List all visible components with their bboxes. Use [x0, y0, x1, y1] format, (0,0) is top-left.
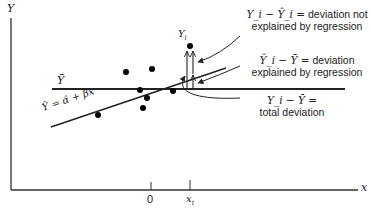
deviation-arrows: [187, 51, 193, 89]
x-tick-label-zero: 0: [147, 193, 153, 205]
annotation-unexplained-line1: deviation not: [308, 8, 368, 20]
annotation-total: Y_i − Ȳ = total deviation: [244, 94, 340, 118]
regression-deviation-diagram: Y x 0 xi Ȳ Ŷ = α̂ + β̂x Yi Y_i − Ŷ_i = d…: [0, 0, 371, 210]
leader-unexplained: [198, 36, 240, 62]
annotation-explained-line2: explained by regression: [244, 66, 370, 78]
data-point: [140, 105, 146, 111]
annotation-total-formula: Y_i − Ȳ =: [244, 94, 340, 106]
data-point: [123, 69, 129, 75]
annotation-unexplained: Y_i − Ŷ_i = deviation not explained by r…: [244, 8, 370, 32]
annotation-unexplained-formula: Y_i − Ŷ_i =: [246, 8, 305, 20]
annotation-total-line2: total deviation: [244, 106, 340, 118]
x-axis-label: x: [361, 181, 367, 194]
data-point: [95, 112, 101, 118]
point-label-yi: Yi: [178, 28, 187, 42]
data-point: [137, 87, 143, 93]
leader-explained: [198, 66, 240, 83]
annotation-explained: Ŷ_i − Ȳ = deviation explained by regress…: [244, 54, 370, 78]
x-tick-label-xi: xi: [186, 193, 194, 207]
mean-line-label: Ȳ: [57, 74, 64, 87]
y-axis-label: Y: [7, 2, 14, 15]
annotation-explained-formula: Ŷ_i − Ȳ =: [259, 54, 309, 66]
annotation-explained-line1: deviation: [312, 54, 354, 66]
data-point-yi: [187, 43, 193, 49]
data-point: [170, 88, 176, 94]
data-point: [144, 95, 150, 101]
data-point: [149, 66, 155, 72]
annotation-unexplained-line2: explained by regression: [244, 20, 370, 32]
